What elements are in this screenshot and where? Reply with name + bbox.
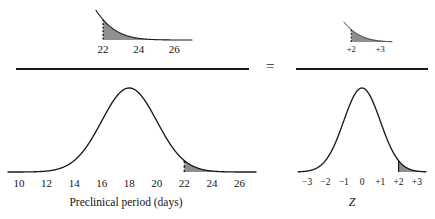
right-main-tick-2: −1	[334, 178, 354, 187]
right-inset-tick-0: +2	[341, 45, 361, 54]
left-inset-svg	[96, 6, 192, 42]
right-main-tick-1: −2	[315, 178, 335, 187]
right-fraction-group: +2 +3 −3−2−10+1+2+3 Z	[288, 0, 435, 219]
right-main-tick-0: −3	[297, 178, 317, 187]
left-fraction-group: 22 24 26 101214161820222426 Preclinical …	[0, 0, 262, 219]
right-axis-title: Z	[332, 196, 372, 208]
left-main-svg	[8, 80, 256, 174]
left-inset-tick-1: 24	[127, 44, 151, 55]
left-inset-tail-chart	[96, 6, 192, 42]
equals-sign: =	[266, 59, 274, 74]
left-inset-tick-0: 22	[91, 44, 115, 55]
right-main-tick-3: 0	[352, 178, 372, 187]
left-axis-title: Preclinical period (days)	[36, 196, 216, 208]
left-fraction-bar	[16, 68, 249, 70]
left-main-tick-0: 10	[7, 178, 31, 189]
left-main-curve-chart	[8, 80, 256, 174]
left-main-tick-5: 20	[145, 178, 169, 189]
right-inset-tick-1: +3	[370, 45, 390, 54]
left-main-tick-4: 18	[117, 178, 141, 189]
left-main-tick-2: 14	[62, 178, 86, 189]
right-main-tick-4: +1	[370, 178, 390, 187]
left-main-tick-6: 22	[172, 178, 196, 189]
left-main-tick-1: 12	[35, 178, 59, 189]
left-main-tick-8: 26	[227, 178, 251, 189]
right-inset-svg	[344, 16, 392, 44]
left-inset-tick-2: 26	[162, 44, 186, 55]
right-fraction-bar	[296, 68, 428, 70]
left-main-tick-3: 16	[90, 178, 114, 189]
right-main-svg	[298, 80, 426, 174]
right-main-tick-6: +3	[407, 178, 427, 187]
left-main-tick-7: 24	[200, 178, 224, 189]
right-main-curve-chart	[298, 80, 426, 174]
figure-canvas: 22 24 26 101214161820222426 Preclinical …	[0, 0, 435, 219]
right-inset-tail-chart	[344, 16, 392, 44]
right-main-tick-5: +2	[389, 178, 409, 187]
